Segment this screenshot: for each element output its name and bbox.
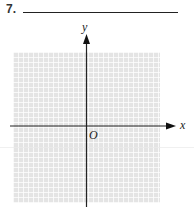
y-axis-label: y (82, 20, 87, 35)
x-axis-arrow-icon (166, 123, 176, 130)
origin-label: O (89, 128, 98, 143)
coordinate-axes (0, 0, 194, 221)
y-axis-arrow-icon (83, 34, 90, 44)
x-axis-label: x (180, 118, 185, 133)
